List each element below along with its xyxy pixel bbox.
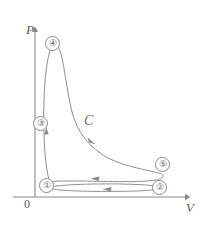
flow-arrow-lower-return-icon	[103, 187, 112, 192]
p-axis-label: P	[26, 23, 34, 36]
v-axis-label: V	[186, 201, 194, 214]
state-marker-4: ④	[45, 36, 60, 51]
curve-c-label: C	[84, 114, 93, 128]
state-marker-5: ⑤	[155, 157, 170, 172]
cycle-lower-loop-path	[51, 184, 157, 191]
cycle-upper-loop-path	[44, 44, 163, 181]
state-marker-1: ①	[39, 178, 54, 193]
state-marker-2: ②	[152, 180, 167, 195]
pv-diagram-figure: P V 0 C ① ② ③ ④ ⑤	[0, 0, 207, 230]
state-marker-3: ③	[33, 116, 48, 131]
origin-label: 0	[24, 198, 30, 210]
flow-arrow-upper-return-icon	[91, 176, 100, 181]
